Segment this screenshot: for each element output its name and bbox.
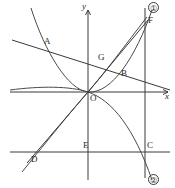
branch-marker-1: ① — [148, 2, 159, 13]
point-label-B: B — [121, 69, 127, 78]
point-label-D: D — [31, 155, 38, 164]
point-label-O: O — [90, 94, 97, 103]
point-label-F: F — [148, 16, 153, 25]
branch-marker-2: ② — [148, 174, 159, 185]
parabola-upward — [31, 8, 152, 92]
point-label-G: G — [98, 53, 105, 62]
point-label-E: E — [83, 141, 89, 150]
geometry-figure: x y O A B C D E F G ① ② — [0, 0, 175, 188]
geometry-canvas — [0, 0, 175, 188]
x-axis-label: x — [165, 92, 169, 101]
point-label-C: C — [147, 141, 153, 150]
chord-line-AGB — [12, 40, 170, 90]
parabola-downward — [10, 87, 152, 180]
y-axis-label: y — [82, 2, 86, 11]
point-label-A: A — [44, 37, 51, 46]
